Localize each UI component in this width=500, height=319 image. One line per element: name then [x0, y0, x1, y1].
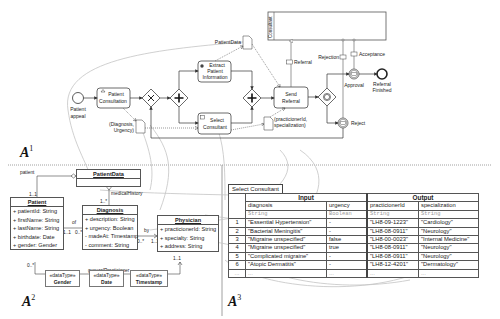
task-label: Referral [282, 98, 300, 104]
class-attribute: - comment: String [83, 241, 137, 249]
cell-practicioner-id[interactable]: "LH8-08-0911" [367, 244, 419, 252]
cell-urgency[interactable]: - [327, 227, 368, 235]
multiplicity: 1..1 [63, 230, 71, 235]
column-diagnosis[interactable]: diagnosis [246, 202, 327, 210]
assoc-medical-history-label: medicalHistory [111, 191, 143, 196]
cell-practicioner-id[interactable]: "LH8-00-0023" [367, 236, 419, 244]
cell-specialization[interactable]: "Neurology" [419, 252, 479, 260]
table-row[interactable]: 6 "Atopic Dermatitis" - "LH8-12-4201" "D… [229, 261, 479, 269]
message-rejection-label: Rejection [318, 54, 339, 60]
data-object-practitioner[interactable] [264, 117, 273, 130]
class-attribute: + gender: Gender [11, 241, 63, 249]
parallel-gateway-join[interactable] [243, 89, 261, 107]
approval-label: Approval [344, 82, 364, 88]
stereotype-label: «dataType» [49, 272, 75, 278]
cell-diagnosis[interactable]: "Migraine unspecified" [246, 236, 327, 244]
message-event-approval[interactable] [349, 69, 359, 79]
cell-practicioner-id[interactable]: "LH8-12-4201" [367, 261, 419, 269]
datatype-date[interactable]: «dataType» Date [89, 270, 124, 287]
cell-practicioner-id[interactable]: "LH8-08-0911" [367, 227, 419, 235]
task-label: Send [285, 91, 297, 97]
cell-diagnosis[interactable]: ... [246, 269, 327, 277]
stereotype-label: «dataType» [93, 272, 119, 278]
cell-practicioner-id[interactable]: "LH8-09-1223" [367, 219, 419, 227]
class-diagnosis[interactable]: Diagnosis + description: String + urgenc… [82, 205, 138, 250]
header-group-row: Input Output [229, 194, 479, 202]
rule-number: 1 [229, 219, 246, 227]
multiplicity: 1..1 [173, 256, 181, 261]
pool-label: Consultant [268, 16, 273, 38]
stereotype-label: «dataType» [136, 272, 162, 278]
table-row[interactable]: 4 "Migraine unspecified" true "LH8-08-09… [229, 244, 479, 252]
table-row[interactable]: 1 "Essential Hypertension" - "LH8-09-122… [229, 219, 479, 227]
table-row[interactable]: 5 "Complicated migraine" - "LH8-08-0911"… [229, 252, 479, 260]
message-event-reject[interactable] [338, 118, 348, 128]
cell-diagnosis[interactable]: "Atopic Dermatitis" [246, 261, 327, 269]
event-based-gateway[interactable] [318, 88, 336, 106]
panel-sup: 3 [237, 293, 241, 302]
multiplicity: 1..* [100, 199, 107, 204]
type-cell: String [246, 210, 327, 218]
cell-practicioner-id[interactable]: "LH8-08-0911" [367, 252, 419, 260]
panel-letter: A [22, 294, 31, 309]
consultant-pool[interactable]: Consultant [268, 12, 386, 40]
column-specialization[interactable]: specialization [419, 202, 479, 210]
class-attribute: + description: String [83, 215, 137, 223]
cell-urgency[interactable]: false [327, 236, 368, 244]
assoc-patient-label: patient [20, 170, 35, 175]
cell-diagnosis[interactable]: "Complicated migraine" [246, 252, 327, 260]
cell-specialization[interactable]: "Cardiology" [419, 219, 479, 227]
envelope-icon [340, 55, 346, 59]
cell-urgency[interactable]: - [327, 219, 368, 227]
datatype-gender[interactable]: «dataType» Gender [45, 270, 80, 287]
cell-specialization[interactable]: "Neurology" [419, 244, 479, 252]
panel-label-a2: A2 [22, 293, 35, 310]
type-cell: String [367, 210, 419, 218]
class-name: Diagnosis [83, 206, 137, 215]
datatype-timestamp[interactable]: «dataType» Timestamp [130, 270, 168, 287]
envelope-icon [351, 52, 357, 56]
assoc-by-label: by [144, 228, 150, 233]
class-patient-data[interactable]: PatientData [76, 169, 141, 187]
cell-specialization[interactable]: "Neurology" [419, 227, 479, 235]
column-practicioner-id[interactable]: practicionerId [367, 202, 419, 210]
column-type-row: String Boolean String String [229, 210, 479, 218]
task-send-referral[interactable]: Send Referral [274, 87, 308, 108]
datatype-name: Timestamp [134, 279, 164, 286]
class-attribute: + specialty: String [158, 234, 218, 242]
cell-urgency[interactable]: - [327, 252, 368, 260]
input-header: Input [246, 194, 368, 202]
end-event-label-2: Finished [373, 87, 392, 93]
cell-diagnosis[interactable]: "Bacterial Meningitis" [246, 227, 327, 235]
class-attribute: + firstName: String [11, 216, 63, 224]
table-row[interactable]: ... ... ... ... ... [229, 269, 479, 277]
datatype-name: Gender [49, 279, 76, 286]
class-patient[interactable]: Patient + patientId: String + firstName:… [10, 197, 64, 250]
cell-specialization[interactable]: "Dermatology" [419, 261, 479, 269]
table-row[interactable]: 2 "Bacterial Meningitis" - "LH8-08-0911"… [229, 227, 479, 235]
cell-urgency[interactable]: - [327, 261, 368, 269]
data-object-patient-data[interactable] [243, 36, 252, 49]
message-acceptance-label: Acceptance [359, 51, 385, 57]
cell-diagnosis[interactable]: "Essential Hypertension" [246, 219, 327, 227]
rule-number: 4 [229, 244, 246, 252]
column-name-row: diagnosis urgency practicionerId special… [229, 202, 479, 210]
cell-diagnosis[interactable]: "Migraine unspecified" [246, 244, 327, 252]
class-attribute: + practicionerId: String [158, 225, 218, 233]
cell-practicioner-id[interactable]: ... [367, 269, 419, 277]
cell-specialization[interactable]: ... [419, 269, 479, 277]
rule-number: 6 [229, 261, 246, 269]
rule-number-header [229, 194, 246, 219]
column-urgency[interactable]: urgency [327, 202, 368, 210]
class-physician[interactable]: Physician + practicionerId: String + spe… [157, 215, 219, 252]
cell-urgency[interactable]: ... [327, 269, 368, 277]
cell-specialization[interactable]: "Internal Medicine" [419, 236, 479, 244]
end-event-referral-finished[interactable] [377, 69, 387, 79]
class-attribute: + urgency: Boolean [83, 224, 137, 232]
datatype-name: Date [93, 279, 120, 286]
class-attribute: + patientId: String [11, 207, 63, 215]
cell-urgency[interactable]: true [327, 244, 368, 252]
type-cell: Boolean [327, 210, 368, 218]
panel-letter: A [228, 294, 237, 309]
table-row[interactable]: 3 "Migraine unspecified" false "LH8-00-0… [229, 236, 479, 244]
